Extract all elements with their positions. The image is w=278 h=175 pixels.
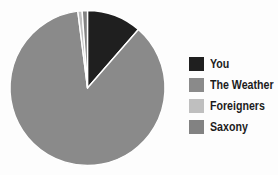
pie-chart: [0, 0, 175, 175]
legend-swatch-icon: [189, 78, 204, 92]
legend-item: The Weather: [189, 78, 278, 92]
chart-canvas: You The Weather Foreigners Saxony: [0, 0, 278, 175]
legend-item: Saxony: [189, 120, 278, 134]
legend-swatch-icon: [189, 99, 204, 113]
legend: You The Weather Foreigners Saxony: [189, 57, 278, 134]
legend-label: You: [210, 57, 229, 71]
legend-label: Foreigners: [210, 99, 265, 113]
pie-chart-area: [0, 0, 175, 175]
legend-swatch-icon: [189, 57, 204, 71]
legend-label: Saxony: [210, 120, 248, 134]
legend-swatch-icon: [189, 120, 204, 134]
legend-label: The Weather: [210, 78, 274, 92]
legend-item: Foreigners: [189, 99, 278, 113]
legend-item: You: [189, 57, 278, 71]
